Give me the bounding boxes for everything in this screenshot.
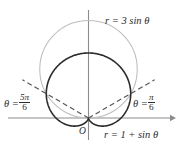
theta-left-fraction: 5π6 [19,93,30,113]
theta-right-denominator: 6 [148,103,155,112]
polar-plot-canvas [0,0,182,149]
circle-equation-label: r = 3 sin θ [105,16,149,27]
origin-label: O [79,127,86,137]
theta-right-fraction: π6 [148,93,155,113]
theta-right-prefix: θ = [133,98,148,109]
ray-theta-5pi-over-6[interactable] [22,80,88,118]
theta-left-prefix: θ = [4,98,19,109]
x-axis-arrow-icon [170,115,176,121]
polar-graph-figure: r = 3 sin θ r = 1 + sin θ O θ =π6 θ =5π6 [0,0,182,149]
axes-group [8,10,176,140]
theta-left-denominator: 6 [19,103,30,112]
cardioid-equation-label: r = 1 + sin θ [104,130,158,141]
theta-right-label: θ =π6 [133,93,155,113]
theta-left-label: θ =5π6 [4,93,30,113]
